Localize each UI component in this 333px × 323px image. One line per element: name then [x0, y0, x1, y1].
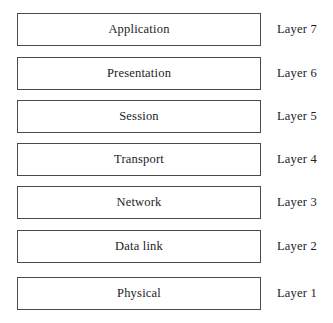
layer-box-application: Application	[17, 13, 261, 46]
osi-layer-diagram: Application Layer 7 Presentation Layer 6…	[0, 0, 333, 323]
layer-row: Network Layer 3	[0, 186, 333, 219]
layer-side-label-2: Layer 2	[277, 230, 317, 263]
layer-row: Data link Layer 2	[0, 230, 333, 263]
layer-box-label: Data link	[115, 240, 163, 253]
layer-side-label-5: Layer 5	[277, 100, 317, 133]
layer-row: Presentation Layer 6	[0, 57, 333, 90]
layer-box-label: Transport	[114, 153, 164, 166]
layer-box-label: Network	[116, 196, 161, 209]
layer-side-label-1: Layer 1	[277, 277, 317, 310]
layer-side-label-7: Layer 7	[277, 13, 317, 46]
layer-side-label-6: Layer 6	[277, 57, 317, 90]
layer-row: Transport Layer 4	[0, 143, 333, 176]
layer-box-label: Presentation	[107, 67, 171, 80]
layer-box-data-link: Data link	[17, 230, 261, 263]
layer-box-label: Physical	[117, 287, 161, 300]
layer-box-physical: Physical	[17, 277, 261, 310]
layer-row: Physical Layer 1	[0, 277, 333, 310]
layer-box-network: Network	[17, 186, 261, 219]
layer-side-label-4: Layer 4	[277, 143, 317, 176]
layer-box-presentation: Presentation	[17, 57, 261, 90]
layer-row: Application Layer 7	[0, 13, 333, 46]
layer-row: Session Layer 5	[0, 100, 333, 133]
layer-box-session: Session	[17, 100, 261, 133]
layer-box-label: Session	[119, 110, 159, 123]
layer-side-label-3: Layer 3	[277, 186, 317, 219]
layer-box-transport: Transport	[17, 143, 261, 176]
layer-box-label: Application	[108, 23, 169, 36]
